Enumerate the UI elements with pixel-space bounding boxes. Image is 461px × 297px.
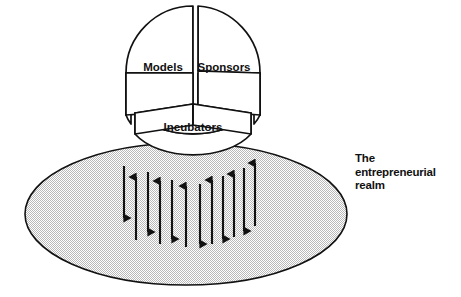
realm-label-line-2: entrepreneurial (355, 166, 455, 180)
realm-label-line-3: realm (355, 179, 455, 193)
realm-label-line-1: The (355, 152, 455, 166)
realm-callout-label: The entrepreneurial realm (355, 152, 455, 193)
diagram-canvas: Models Sponsors Incubators The entrepren… (0, 0, 461, 297)
diagram-illustration: Models Sponsors Incubators (0, 0, 461, 297)
wedge-label-models: Models (143, 61, 183, 73)
wedge-label-incubators: Incubators (164, 121, 223, 133)
wedge-label-sponsors: Sponsors (197, 61, 250, 73)
